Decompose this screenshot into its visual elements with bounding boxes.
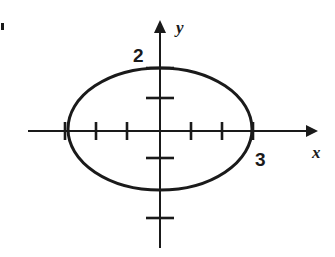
y-intercept-label: 2: [133, 45, 144, 66]
ellipse-diagram: y x 2 3: [0, 0, 335, 257]
x-axis-label: x: [311, 143, 321, 162]
figure-canvas: y x 2 3: [0, 0, 335, 257]
scan-artifact: [1, 23, 4, 30]
y-axis-label: y: [174, 18, 184, 37]
x-intercept-label: 3: [255, 149, 266, 170]
